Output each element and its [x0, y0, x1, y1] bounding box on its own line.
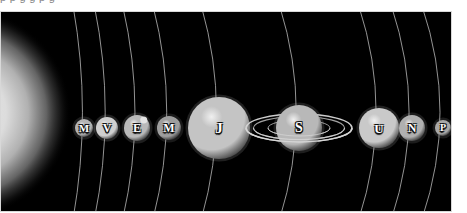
orbit-venus	[94, 12, 105, 212]
orbit-mercury	[73, 12, 82, 212]
planet-venus-body[interactable]	[96, 117, 118, 139]
planet-venus[interactable]	[94, 115, 121, 142]
clipped-caption-text: p p g g p g	[0, 0, 467, 5]
planet-pluto[interactable]	[433, 118, 453, 139]
scene-vector-layer	[1, 12, 452, 212]
planet-mercury[interactable]	[73, 117, 96, 140]
planet-saturn[interactable]	[246, 103, 352, 154]
planet-mercury-body[interactable]	[75, 119, 93, 137]
planet-neptune-body[interactable]	[399, 115, 425, 141]
orbit-earth	[123, 12, 135, 212]
solar-system-figure-page: p p g g p g MVEMJSUNP	[0, 0, 467, 213]
planet-saturn-body[interactable]	[276, 105, 322, 151]
planet-jupiter-body[interactable]	[188, 97, 250, 159]
planet-mars[interactable]	[155, 114, 184, 143]
planet-jupiter[interactable]	[186, 95, 253, 162]
planet-earth[interactable]	[122, 113, 153, 144]
sun-glow	[1, 12, 71, 212]
orbit-pluto	[422, 12, 440, 212]
planet-uranus-body[interactable]	[359, 108, 399, 148]
planet-earth-moon	[140, 116, 147, 123]
planet-neptune[interactable]	[397, 113, 428, 144]
solar-system-scene: MVEMJSUNP	[1, 12, 452, 212]
planet-bodies-group	[73, 95, 453, 162]
planet-uranus[interactable]	[357, 106, 402, 151]
orbit-mars	[153, 12, 167, 212]
planet-mars-body[interactable]	[157, 116, 181, 140]
planet-pluto-body[interactable]	[435, 120, 451, 136]
figure-panel: MVEMJSUNP	[0, 11, 452, 212]
sun-glow-group	[1, 12, 71, 212]
